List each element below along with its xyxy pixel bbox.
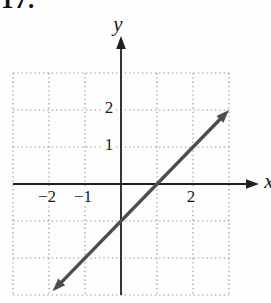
x-axis-label: x — [264, 171, 271, 192]
y-tick-label-2: 2 — [103, 98, 116, 117]
textbook-figure: 17. y x −2−1221 — [0, 0, 271, 303]
y-axis-arrow-icon — [116, 36, 126, 49]
x-tick-label--1: −1 — [72, 187, 94, 206]
x-tick-label--2: −2 — [36, 187, 58, 206]
y-axis-label: y — [113, 14, 122, 35]
x-tick-label-2: 2 — [185, 187, 198, 206]
y-tick-label-1: 1 — [103, 135, 116, 154]
x-axis-arrow-icon — [246, 179, 259, 189]
coordinate-plane — [0, 0, 271, 303]
